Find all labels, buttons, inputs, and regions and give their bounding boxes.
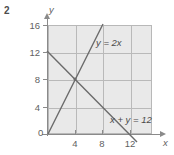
graph-figure: 2 16 12 8 4 4 8 12 0 y x: [0, 0, 174, 155]
lines-layer: [0, 0, 174, 155]
intersection-point-marker: [73, 77, 76, 80]
line-label-x-plus-y-equals-12: x + y = 12: [110, 115, 152, 125]
line-x-plus-y-equals-12: [47, 51, 137, 142]
line-label-y-equals-2x: y = 2x: [96, 38, 122, 48]
